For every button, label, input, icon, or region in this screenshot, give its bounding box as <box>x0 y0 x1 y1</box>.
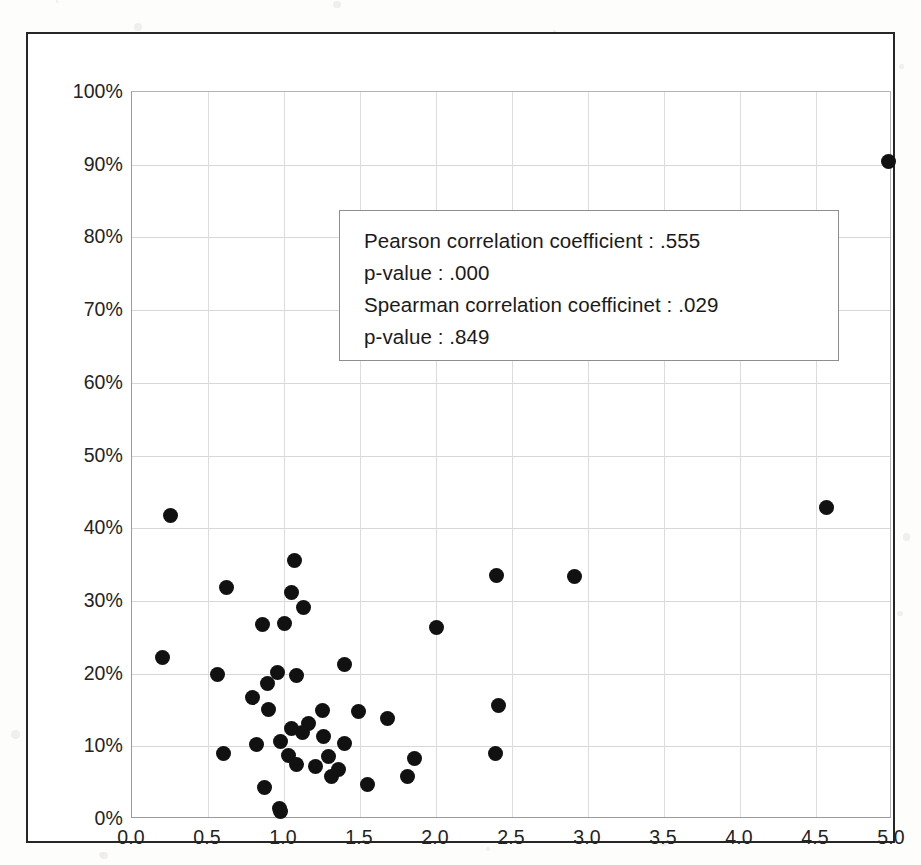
scatter-point <box>316 729 331 744</box>
scatter-point <box>380 711 395 726</box>
scan-speckle <box>56 0 58 2</box>
y-tick-label: 70% <box>45 298 123 321</box>
x-axis-tick-labels: 0.00.51.01.52.02.53.03.54.04.55.0 <box>131 826 891 860</box>
scan-speckle <box>899 64 904 69</box>
scan-speckle <box>134 23 142 31</box>
y-tick-label: 100% <box>45 80 123 103</box>
gridline-horizontal <box>132 674 890 675</box>
gridline-vertical <box>512 92 513 817</box>
scatter-point <box>287 553 302 568</box>
scatter-point <box>491 698 506 713</box>
gridline-horizontal <box>132 601 890 602</box>
scatter-point <box>881 154 896 169</box>
scatter-point <box>321 749 336 764</box>
scatter-point <box>210 667 225 682</box>
scan-speckle <box>333 1 340 8</box>
y-axis-tick-labels: 0%10%20%30%40%50%60%70%80%90%100% <box>38 91 123 818</box>
scatter-point <box>289 757 304 772</box>
stats-line-pearson-pvalue: p-value : .000 <box>364 257 838 289</box>
scatter-point <box>260 676 275 691</box>
scatter-point <box>249 737 264 752</box>
scan-speckle <box>903 533 910 540</box>
y-tick-label: 10% <box>45 734 123 757</box>
gridline-vertical <box>436 92 437 817</box>
scatter-point <box>296 600 311 615</box>
scatter-point <box>289 668 304 683</box>
scatter-point <box>216 746 231 761</box>
y-tick-label: 50% <box>45 443 123 466</box>
gridline-vertical <box>588 92 589 817</box>
stats-line-pearson: Pearson correlation coefficient : .555 <box>364 225 838 257</box>
gridline-vertical <box>664 92 665 817</box>
plot-area <box>131 91 891 818</box>
gridline-horizontal <box>132 456 890 457</box>
stats-line-spearman-pvalue: p-value : .849 <box>364 321 838 353</box>
scatter-point <box>284 585 299 600</box>
scan-speckle <box>11 730 20 739</box>
y-tick-label: 90% <box>45 152 123 175</box>
scatter-point <box>163 508 178 523</box>
y-tick-label: 20% <box>45 661 123 684</box>
gridline-vertical <box>816 92 817 817</box>
gridline-vertical <box>284 92 285 817</box>
scatter-point <box>261 702 276 717</box>
scatter-point <box>245 690 260 705</box>
gridline-horizontal <box>132 528 890 529</box>
scatter-point <box>315 703 330 718</box>
scatter-point <box>407 751 422 766</box>
scatter-point <box>257 780 272 795</box>
scatter-point <box>337 736 352 751</box>
y-tick-label: 80% <box>45 225 123 248</box>
gridline-vertical <box>208 92 209 817</box>
y-tick-label: 30% <box>45 588 123 611</box>
scatter-point <box>488 746 503 761</box>
scan-speckle <box>897 611 903 617</box>
gridline-horizontal <box>132 383 890 384</box>
scatter-point <box>277 616 292 631</box>
scatter-point <box>308 759 323 774</box>
scatter-point <box>324 769 339 784</box>
correlation-statistics-box: Pearson correlation coefficient : .555 p… <box>339 210 839 361</box>
scatter-point <box>429 620 444 635</box>
scatter-point <box>351 704 366 719</box>
gridline-vertical <box>740 92 741 817</box>
scatter-point <box>295 725 310 740</box>
gridline-horizontal <box>132 746 890 747</box>
scatter-point <box>219 580 234 595</box>
y-tick-label: 60% <box>45 370 123 393</box>
scatter-point <box>567 569 582 584</box>
x-tick-label: 5.0 <box>846 826 921 849</box>
scan-speckle <box>100 852 108 860</box>
scatter-point <box>255 617 270 632</box>
figure-frame: 0%10%20%30%40%50%60%70%80%90%100% 0.00.5… <box>26 32 895 843</box>
stats-line-spearman: Spearman correlation coefficinet : .029 <box>364 289 838 321</box>
scatter-point <box>400 769 415 784</box>
gridline-horizontal <box>132 165 890 166</box>
scatter-point <box>489 568 504 583</box>
scatter-point <box>273 804 288 819</box>
scatter-point <box>819 500 834 515</box>
y-tick-label: 40% <box>45 516 123 539</box>
scatter-point <box>360 777 375 792</box>
scatter-point <box>337 657 352 672</box>
scatter-point <box>155 650 170 665</box>
